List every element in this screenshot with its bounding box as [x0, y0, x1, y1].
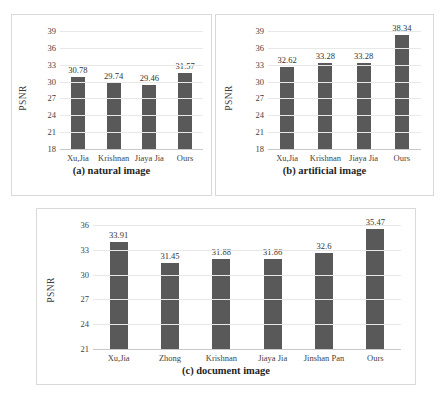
grid-line — [268, 48, 421, 49]
bar-slot: 31.45 — [144, 225, 195, 349]
x-tick-label: Krishnan — [310, 153, 341, 163]
x-tick-label: Ours — [177, 153, 194, 163]
bar[interactable] — [318, 63, 332, 149]
y-tick-label: 27 — [81, 294, 90, 304]
grid-line — [60, 132, 203, 133]
y-tick-label: 30 — [81, 270, 90, 280]
x-tick-label: Xu,Jia — [108, 353, 130, 363]
x-tick-label: Xu,Jia — [276, 153, 298, 163]
y-tick-label: 36 — [81, 220, 90, 230]
chart-panel-a: PSNR 1821242730333639 30.7829.7429.4631.… — [11, 14, 212, 196]
bar-slot: 33.91 — [93, 225, 144, 349]
bar-value-label: 31.45 — [160, 251, 179, 261]
y-tick-label: 24 — [81, 319, 90, 329]
plot-area-c: 33.9131.4531.8831.8632.635.47 — [93, 225, 401, 349]
y-tick-label: 33 — [48, 60, 57, 70]
x-tick-label: Jiaya Jia — [135, 153, 164, 163]
bar-value-label: 33.28 — [316, 51, 335, 61]
y-tick-label: 39 — [256, 26, 265, 36]
bar-series-c: 33.9131.4531.8831.8632.635.47 — [93, 225, 401, 349]
grid-line — [93, 299, 401, 300]
plot-area-b: 32.6233.2833.2838.34 — [268, 31, 421, 149]
grid-line — [268, 31, 421, 32]
x-tick-label: Zhong — [159, 353, 181, 363]
y-tick-label: 21 — [81, 344, 90, 354]
bar[interactable] — [264, 259, 282, 349]
bar-slot: 31.88 — [196, 225, 247, 349]
grid-line — [268, 132, 421, 133]
y-tick-label: 24 — [48, 110, 57, 120]
bar-value-label: 33.28 — [354, 51, 373, 61]
y-axis-ticks-c: 212427303336 — [37, 225, 89, 349]
grid-line — [268, 82, 421, 83]
y-tick-label: 36 — [48, 43, 57, 53]
chart-panel-b: PSNR 1821242730333639 32.6233.2833.2838.… — [215, 14, 434, 196]
bar-slot: 32.6 — [298, 225, 349, 349]
grid-line — [268, 115, 421, 116]
bar[interactable] — [178, 73, 192, 149]
y-tick-label: 27 — [256, 93, 265, 103]
grid-line — [60, 98, 203, 99]
grid-line — [93, 324, 401, 325]
grid-line — [268, 149, 421, 150]
grid-line — [60, 31, 203, 32]
y-tick-label: 36 — [256, 43, 265, 53]
grid-line — [93, 225, 401, 226]
x-tick-label: Ours — [394, 153, 411, 163]
y-tick-label: 30 — [48, 77, 57, 87]
bar[interactable] — [110, 242, 128, 349]
bar[interactable] — [366, 229, 384, 349]
y-axis-ticks-b: 1821242730333639 — [216, 31, 264, 149]
bar-value-label: 33.91 — [109, 230, 128, 240]
grid-line — [268, 98, 421, 99]
bar-value-label: 31.88 — [212, 247, 231, 257]
bar-slot: 35.47 — [350, 225, 401, 349]
y-tick-label: 18 — [48, 144, 57, 154]
y-tick-label: 18 — [256, 144, 265, 154]
grid-line — [93, 275, 401, 276]
panel-caption-c: (c) document image — [37, 365, 415, 376]
grid-line — [60, 115, 203, 116]
grid-line — [93, 349, 401, 350]
y-axis-ticks-a: 1821242730333639 — [12, 31, 56, 149]
chart-panel-c: PSNR 212427303336 33.9131.4531.8831.8632… — [36, 208, 416, 385]
x-tick-label: Krishnan — [98, 153, 129, 163]
bar[interactable] — [357, 63, 371, 149]
grid-line — [268, 65, 421, 66]
grid-line — [93, 250, 401, 251]
x-tick-label: Ours — [367, 353, 384, 363]
grid-line — [60, 65, 203, 66]
grid-line — [60, 82, 203, 83]
x-tick-label: Xu,Jia — [67, 153, 89, 163]
bar[interactable] — [315, 253, 333, 349]
bar[interactable] — [71, 77, 85, 149]
y-tick-label: 30 — [256, 77, 265, 87]
x-tick-label: Jiaya Jia — [349, 153, 378, 163]
bar-value-label: 29.74 — [104, 71, 123, 81]
plot-area-a: 30.7829.7429.4631.57 — [60, 31, 203, 149]
bar-value-label: 32.62 — [278, 55, 297, 65]
x-tick-label: Krishnan — [206, 353, 237, 363]
y-tick-label: 33 — [81, 245, 90, 255]
y-tick-label: 33 — [256, 60, 265, 70]
y-tick-label: 21 — [256, 127, 265, 137]
panel-caption-b: (b) artificial image — [216, 165, 433, 176]
grid-line — [60, 48, 203, 49]
bar[interactable] — [280, 67, 294, 149]
bar[interactable] — [212, 259, 230, 349]
y-tick-label: 21 — [48, 127, 57, 137]
bar-value-label: 31.57 — [176, 61, 195, 71]
bar-value-label: 31.86 — [263, 247, 282, 257]
y-tick-label: 39 — [48, 26, 57, 36]
bar-slot: 31.86 — [247, 225, 298, 349]
x-tick-label: Jiaya Jia — [258, 353, 287, 363]
grid-line — [60, 149, 203, 150]
bar[interactable] — [142, 85, 156, 149]
x-tick-label: Jinshan Pan — [304, 353, 344, 363]
bar-value-label: 30.78 — [68, 65, 87, 75]
y-tick-label: 27 — [48, 93, 57, 103]
panel-caption-a: (a) natural image — [12, 165, 211, 176]
figure-container: PSNR 1821242730333639 30.7829.7429.4631.… — [0, 0, 443, 399]
y-tick-label: 24 — [256, 110, 265, 120]
